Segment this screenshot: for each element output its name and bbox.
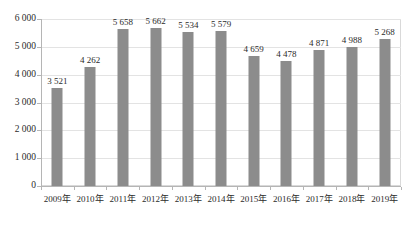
- bar: [248, 56, 259, 186]
- bar: [183, 32, 194, 186]
- bar-series: 3 5214 2625 6585 6625 5345 5794 6594 478…: [0, 0, 414, 227]
- bar-value-label: 5 268: [375, 28, 395, 37]
- bar-value-label: 4 262: [80, 56, 100, 65]
- bar-value-label: 4 871: [309, 39, 329, 48]
- bar: [117, 29, 128, 186]
- bar-chart-figure: 01 0002 0003 0004 0005 0006 000 2009年201…: [0, 0, 414, 227]
- bar-value-label: 4 988: [342, 36, 362, 45]
- bar-value-label: 5 662: [145, 17, 165, 26]
- bar: [52, 88, 63, 186]
- bar-value-label: 4 478: [276, 50, 296, 59]
- bar: [85, 67, 96, 186]
- bar: [314, 50, 325, 186]
- bar: [346, 47, 357, 186]
- bar-value-label: 5 658: [113, 18, 133, 27]
- bar-value-label: 5 579: [211, 20, 231, 29]
- bar: [281, 61, 292, 186]
- bar: [150, 28, 161, 186]
- bar-value-label: 4 659: [244, 45, 264, 54]
- bar: [379, 39, 390, 186]
- bar-value-label: 3 521: [47, 77, 67, 86]
- bar: [216, 31, 227, 186]
- bar-value-label: 5 534: [178, 21, 198, 30]
